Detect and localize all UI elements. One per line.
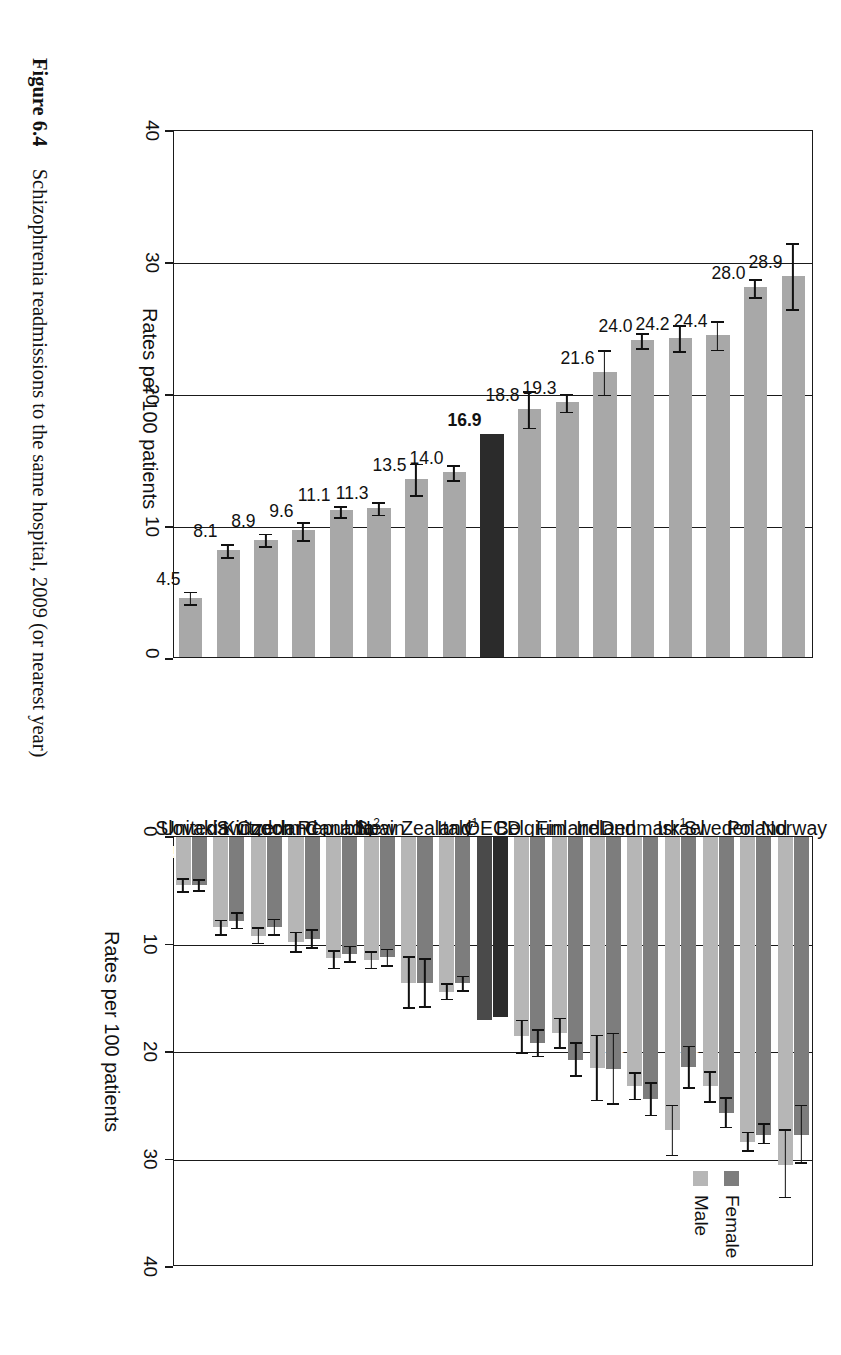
- error-bar: [306, 929, 318, 948]
- category-label: Israel: [662, 660, 700, 828]
- error-bar: [177, 878, 189, 893]
- bar-male: [740, 837, 755, 1142]
- axis-tick-mark: [165, 130, 173, 132]
- error-bar: [779, 1129, 791, 1198]
- category-label: Poland: [738, 660, 776, 828]
- figure-title: Schizophrenia readmissions to the same h…: [29, 169, 51, 758]
- error-bar: [629, 1072, 641, 1100]
- category-label: United Kingdom: [211, 660, 249, 828]
- bar-male: [665, 837, 680, 1130]
- error-bar: [758, 1123, 770, 1145]
- error-bar: [673, 325, 686, 353]
- bar-value-label: 4.5: [151, 844, 174, 863]
- bar-female: [643, 837, 658, 1099]
- error-bar: [607, 1033, 619, 1105]
- bar-value-label: 18.8: [485, 385, 519, 406]
- bar-value-label: 8.9: [231, 511, 255, 532]
- axis-tick-mark: [165, 1051, 173, 1053]
- bar-female: [267, 837, 282, 927]
- bar-total: [405, 479, 428, 657]
- legend-item-female: Female: [721, 1171, 743, 1258]
- figure-caption: Figure 6.4 Schizophrenia readmissions to…: [28, 58, 51, 757]
- error-bar: [419, 958, 431, 1007]
- total-plot-area: 28.9 28.0 24.4 24.2 24.0: [173, 130, 813, 658]
- error-bar: [290, 932, 302, 954]
- bar-value-label: 28.9: [749, 252, 783, 273]
- error-bar: [720, 1097, 732, 1128]
- error-bar: [570, 1042, 582, 1076]
- bar-male: [364, 837, 379, 960]
- error-bar: [441, 983, 453, 1000]
- error-bar: [711, 321, 724, 351]
- error-bar: [193, 879, 205, 892]
- sex-panel: 27.7 30.5 27.7 28.4 25.7: [123, 836, 813, 1336]
- bar-female: [455, 837, 470, 983]
- axis-tick-mark: [165, 1266, 173, 1268]
- axis-tick-label: 0: [139, 826, 161, 837]
- bar-total: [706, 335, 729, 657]
- error-bar: [372, 502, 385, 517]
- bar-value-label: 21.6: [560, 348, 594, 369]
- category-label: Slovakia: [173, 660, 211, 828]
- bar-value-label: 16.9: [447, 410, 481, 431]
- error-bar: [666, 1105, 678, 1157]
- axis-tick-label: 20: [139, 1041, 161, 1062]
- bar-female: [229, 837, 244, 921]
- error-bar: [645, 1082, 657, 1116]
- error-bar: [184, 592, 197, 607]
- bar-female: [568, 837, 583, 1060]
- error-bar: [215, 920, 227, 936]
- bar-total: [217, 550, 240, 657]
- bar-total: [330, 510, 353, 657]
- bar-total: [443, 472, 466, 657]
- bar-female: [380, 837, 395, 957]
- axis-tick-mark: [165, 836, 173, 838]
- bar-total: [669, 338, 692, 657]
- axis-tick-label: 40: [139, 1256, 161, 1277]
- error-bar: [410, 464, 423, 497]
- error-bar: [252, 927, 264, 944]
- axis-tick-mark: [165, 394, 173, 396]
- bar-male: [514, 837, 529, 1036]
- category-label: Ireland: [587, 660, 625, 828]
- bar-male: [703, 837, 718, 1086]
- error-bar: [786, 243, 799, 310]
- gridline: [174, 1160, 812, 1161]
- error-bar: [742, 1132, 754, 1152]
- bar-total: [480, 434, 503, 657]
- legend-item-male: Male: [690, 1171, 712, 1258]
- category-label: OECD: [474, 660, 512, 828]
- error-bar: [749, 279, 762, 299]
- axis-tick-mark: [165, 658, 173, 660]
- error-bar: [683, 1046, 695, 1089]
- bar-female: [342, 837, 357, 954]
- axis-tick-mark: [165, 526, 173, 528]
- error-bar: [344, 946, 356, 963]
- error-bar: [334, 506, 347, 519]
- category-label: Norway: [775, 660, 813, 828]
- bar-value-label: 13.5: [372, 455, 406, 476]
- bar-total: [631, 340, 654, 657]
- legend: Female Male: [690, 1171, 743, 1258]
- figure-number: Figure 6.4: [29, 58, 51, 146]
- bar-male: [326, 837, 341, 958]
- axis-tick-label: 10: [139, 934, 161, 955]
- axis-tick-label: 30: [139, 1149, 161, 1170]
- bar-total: [593, 372, 616, 657]
- error-bar: [516, 1020, 528, 1054]
- bar-total: [556, 402, 579, 657]
- bar-value-label: 9.6: [269, 501, 293, 522]
- error-bar: [560, 394, 573, 414]
- bar-value-label: 8.1: [194, 521, 218, 542]
- error-bar: [554, 1018, 566, 1049]
- error-bar: [403, 956, 415, 1009]
- axis-tick-mark: [165, 944, 173, 946]
- category-label: Italy: [437, 660, 475, 828]
- category-label: Sweden: [700, 660, 738, 828]
- bar-total: [744, 287, 767, 657]
- error-bar: [532, 1029, 544, 1057]
- category-label: New Zealand1: [399, 660, 437, 828]
- error-bar: [381, 949, 393, 967]
- bar-female: [719, 837, 734, 1113]
- figure-container: 28.9 28.0 24.4 24.2 24.0: [0, 0, 841, 1355]
